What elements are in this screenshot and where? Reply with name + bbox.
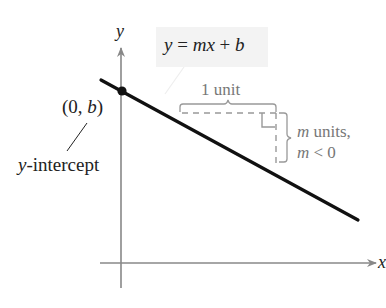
equation-label: y = mx + b	[164, 34, 245, 56]
equation-equals: =	[172, 34, 192, 55]
intercept-leader	[67, 123, 87, 151]
rise-m: m	[297, 122, 309, 141]
rise-rest: units,	[309, 122, 351, 141]
condition-m: m	[297, 143, 309, 162]
equation-leader	[165, 67, 184, 94]
equation-plus: +	[215, 34, 235, 55]
y-axis-label: y	[116, 21, 124, 42]
rise-brace	[279, 113, 291, 162]
coord-close: )	[97, 96, 103, 117]
intercept-rest: -intercept	[26, 154, 99, 175]
slope-condition-label: m < 0	[297, 143, 336, 163]
equation-x: x	[206, 34, 214, 55]
condition-rest: < 0	[309, 143, 336, 162]
rise-label: m units,	[297, 122, 351, 142]
right-angle-marker	[262, 113, 275, 127]
y-intercept-point	[117, 86, 126, 95]
run-label: 1 unit	[201, 80, 240, 100]
equation-b: b	[235, 34, 245, 55]
coord-b: b	[87, 96, 97, 117]
run-brace	[180, 100, 276, 112]
equation-m: m	[193, 34, 207, 55]
x-axis-label: x	[378, 252, 386, 273]
y-intercept-label: y-intercept	[18, 154, 99, 176]
intercept-coordinate-label: (0, b)	[62, 96, 103, 118]
coord-open: (0,	[62, 96, 87, 117]
